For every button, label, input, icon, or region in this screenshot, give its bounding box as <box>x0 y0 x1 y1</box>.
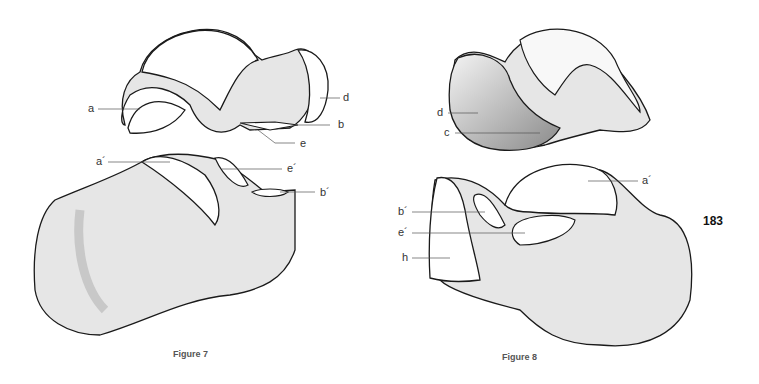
figure7-caption: Figure 7 <box>173 349 208 359</box>
anatomical-illustration <box>0 0 759 384</box>
label-e-prime: e´ <box>287 163 297 174</box>
page-number: 183 <box>703 214 723 228</box>
label-d-fig8: d <box>437 107 443 118</box>
label-e: e <box>300 138 306 149</box>
label-b: b <box>338 119 344 130</box>
figure8-talus-top <box>449 29 650 150</box>
label-a: a <box>88 103 94 114</box>
figure8-calcaneus <box>429 165 691 346</box>
label-b-prime: b´ <box>320 187 330 198</box>
label-a-prime: a´ <box>96 156 106 167</box>
figure8-caption: Figure 8 <box>502 352 537 362</box>
label-c-fig8: c <box>444 127 450 138</box>
label-a-prime-fig8: a´ <box>642 175 652 186</box>
label-d: d <box>343 92 349 103</box>
label-e-prime-fig8: e´ <box>398 227 408 238</box>
figure7-calcaneus <box>34 154 295 335</box>
label-b-prime-fig8: b´ <box>398 206 408 217</box>
figure7-talus-top <box>122 29 328 133</box>
label-h-fig8: h <box>402 252 408 263</box>
